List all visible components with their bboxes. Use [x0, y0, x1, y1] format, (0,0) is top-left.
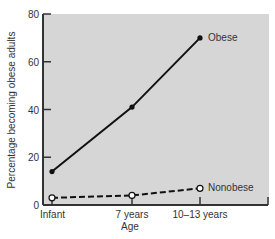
obese-marker — [129, 105, 134, 110]
y-tick-label: 40 — [28, 105, 40, 116]
y-tick-label: 0 — [33, 200, 39, 211]
x-tick-label: 7 years — [116, 209, 149, 220]
obese-marker — [197, 35, 202, 40]
y-tick-label: 60 — [28, 57, 40, 68]
y-tick-label: 80 — [28, 9, 40, 20]
nonobese-marker — [129, 192, 135, 198]
nonobese-marker — [197, 185, 203, 191]
x-tick-label: 10–13 years — [172, 209, 227, 220]
x-tick-label: Infant — [40, 209, 65, 220]
nonobese-series-label: Nonobese — [208, 182, 254, 193]
nonobese-marker — [49, 195, 55, 201]
y-axis-title: Percentage becoming obese adults — [6, 32, 17, 189]
y-tick-label: 20 — [28, 152, 40, 163]
line-chart: 020406080 Infant7 years10–13 years Obese… — [0, 0, 275, 239]
x-axis-title: Age — [121, 221, 139, 232]
obese-marker — [49, 169, 54, 174]
obese-series-label: Obese — [208, 32, 238, 43]
